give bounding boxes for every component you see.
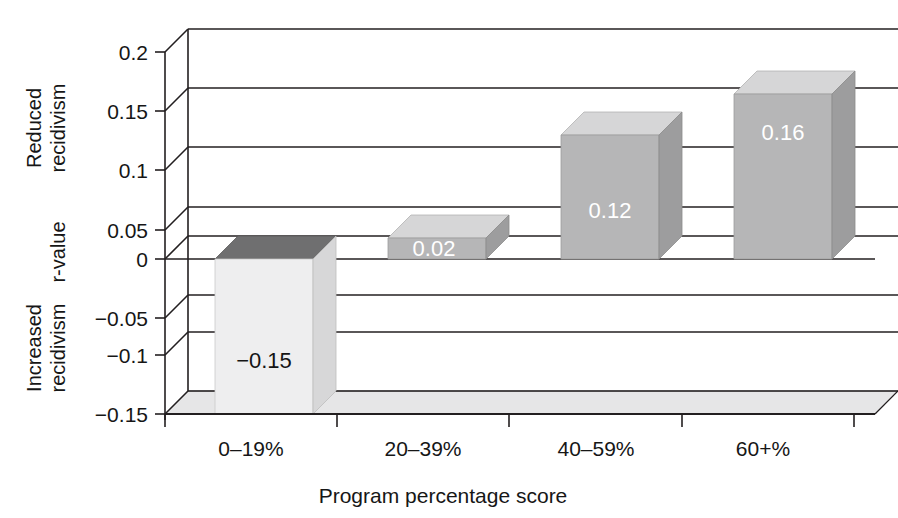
bar-chart-3d: 0.2 0.15 0.1 0.05 0 −0.05 −0.1 −0.15 Red… [0,0,898,518]
y-tick-label: −0.05 [95,307,148,330]
y-tick-label: −0.15 [95,403,148,426]
y-tick-label: 0.2 [119,41,148,64]
chart-container: 0.2 0.15 0.1 0.05 0 −0.05 −0.1 −0.15 Red… [0,0,898,518]
bar-60-plus[interactable]: 0.16 [734,71,855,259]
bar-40-59[interactable]: 0.12 [561,112,682,259]
zone-label-reduced-line2: recidivism [47,84,69,173]
zone-label-reduced-line1: Reduced [23,88,45,168]
zone-label-increased-line1: Increased [23,304,45,392]
y-tick-label: 0.05 [107,219,148,242]
bar-value-label: −0.15 [236,348,292,373]
y-tick-label: 0 [136,248,148,271]
x-tick-label: 60+% [736,437,790,460]
x-tick-label: 20–39% [384,437,461,460]
bar-value-label: 0.02 [413,236,456,261]
y-tick-label: 0.1 [119,159,148,182]
bar-value-label: 0.16 [762,120,805,145]
zone-label-r-value: r-value [47,221,69,282]
x-tick-label: 40–59% [557,437,634,460]
x-tick-label: 0–19% [218,437,283,460]
bar-20-39[interactable]: 0.02 [388,215,509,261]
zone-label-increased-line2: recidivism [47,304,69,393]
bar-value-label: 0.12 [589,198,632,223]
y-tick-label: −0.1 [107,344,148,367]
x-axis-title: Program percentage score [319,484,568,507]
y-tick-label: 0.15 [107,100,148,123]
bar-0-19[interactable]: −0.15 [215,236,336,414]
